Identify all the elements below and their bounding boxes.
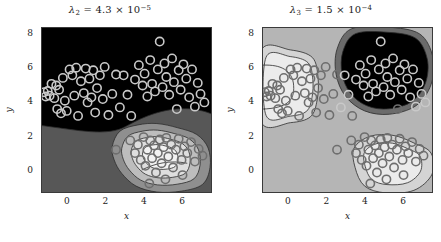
xtick-label: 4: [362, 196, 368, 206]
panel-left-xaxis-label: x: [41, 211, 212, 221]
panel-right-title-subscript: 3: [296, 9, 301, 17]
panel-left-title: λ2 = 4.3 × 10−5: [0, 4, 220, 17]
panel-left-yaxis-label: y: [4, 107, 14, 112]
ytick-label: 2: [248, 131, 254, 141]
panel-right-xtick-labels: 0246: [262, 196, 433, 212]
panel-left-title-exponent: −5: [140, 4, 151, 12]
panel-left-title-subscript: 2: [75, 9, 80, 17]
ytick-label: 6: [248, 62, 254, 72]
panel-right-xaxis-label: x: [262, 211, 433, 221]
xtick-label: 2: [323, 196, 329, 206]
xtick-label: 0: [285, 196, 291, 206]
xtick-label: 6: [179, 196, 185, 206]
xtick-label: 2: [102, 196, 108, 206]
ytick-label: 8: [248, 28, 254, 38]
panel-right-title-exponent: −4: [361, 4, 372, 12]
panel-right-title-mantissa: 1.5: [316, 4, 333, 15]
ytick-label: 4: [248, 96, 254, 106]
panel-right: λ3 = 1.5 × 10−4 02468 0246 x y: [221, 0, 441, 242]
panel-left-title-times: ×: [115, 4, 124, 15]
panel-left-xtick-labels: 0246: [41, 196, 212, 212]
ytick-label: 0: [27, 165, 33, 175]
xtick-label: 4: [141, 196, 147, 206]
panel-left-plot-area: [41, 27, 212, 193]
panel-right-title: λ3 = 1.5 × 10−4: [221, 4, 441, 17]
panel-right-yaxis-label: y: [225, 107, 235, 112]
xtick-label: 0: [64, 196, 70, 206]
ytick-label: 4: [27, 96, 33, 106]
panel-right-title-base: 10: [348, 4, 361, 15]
xtick-label: 6: [400, 196, 406, 206]
panel-right-contour-canvas: [263, 28, 432, 192]
figure-root: λ2 = 4.3 × 10−5 02468 0246 x y λ3 = 1.5 …: [0, 0, 441, 242]
panel-right-title-equals: =: [304, 4, 313, 15]
panel-right-plot-area: [262, 27, 433, 193]
panel-left: λ2 = 4.3 × 10−5 02468 0246 x y: [0, 0, 220, 242]
ytick-label: 8: [27, 28, 33, 38]
panel-left-title-mantissa: 4.3: [95, 4, 112, 15]
ytick-label: 0: [248, 165, 254, 175]
ytick-label: 2: [27, 131, 33, 141]
panel-left-title-base: 10: [127, 4, 140, 15]
panel-left-title-equals: =: [83, 4, 92, 15]
panel-right-title-times: ×: [336, 4, 345, 15]
panel-left-contour-canvas: [42, 28, 211, 192]
ytick-label: 6: [27, 62, 33, 72]
